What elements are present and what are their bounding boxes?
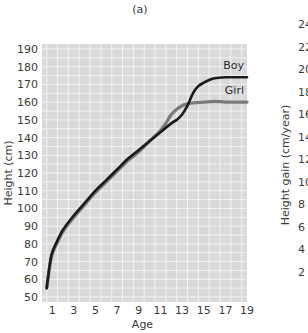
- x-tick-label: 11: [153, 304, 167, 317]
- y-tick-label-b: 12: [298, 153, 308, 166]
- y-tick-label: 70: [24, 256, 38, 269]
- chart-title: (a): [132, 3, 147, 16]
- y-tick-label-b: 16: [298, 108, 308, 121]
- x-tick-label: 3: [70, 304, 77, 317]
- y-tick-label: 110: [17, 185, 38, 198]
- y-tick-label-b: 2: [298, 266, 305, 279]
- figure: (a) 506070809010011012013014015016017018…: [0, 0, 308, 333]
- x-axis-ticks: 135791113151719: [49, 304, 254, 317]
- y-axis-label: Height (cm): [2, 140, 15, 205]
- x-tick-label: 7: [114, 304, 121, 317]
- y-tick-label: 130: [17, 149, 38, 162]
- y-tick-label: 150: [17, 114, 38, 127]
- y-tick-label: 100: [17, 202, 38, 215]
- y-axis-label-b: Height gain (cm/year): [279, 105, 292, 226]
- x-tick-label: 5: [92, 304, 99, 317]
- chart-b-partial: 24222018161412108642 Height gain (cm/yea…: [279, 18, 308, 279]
- y-tick-label: 120: [17, 167, 38, 180]
- y-tick-label: 80: [24, 238, 38, 251]
- y-tick-label-b: 8: [298, 198, 305, 211]
- y-tick-label: 90: [24, 220, 38, 233]
- chart-a: 5060708090100110120130140150160170180190…: [2, 43, 254, 331]
- series-label-girl: Girl: [225, 84, 244, 97]
- x-tick-label: 15: [197, 304, 211, 317]
- x-tick-label: 17: [218, 304, 232, 317]
- y-tick-label: 180: [17, 61, 38, 74]
- y-tick-label-b: 24: [298, 18, 308, 31]
- y-tick-label-b: 10: [298, 176, 308, 189]
- y-tick-label: 140: [17, 132, 38, 145]
- y-tick-label-b: 22: [298, 41, 308, 54]
- y-axis-ticks-b: 24222018161412108642: [298, 18, 308, 279]
- y-axis-ticks: 5060708090100110120130140150160170180190: [17, 43, 38, 304]
- y-tick-label: 170: [17, 78, 38, 91]
- y-tick-label-b: 20: [298, 63, 308, 76]
- y-tick-label: 60: [24, 273, 38, 286]
- x-axis-label: Age: [132, 318, 154, 331]
- y-tick-label-b: 14: [298, 131, 308, 144]
- y-tick-label-b: 18: [298, 86, 308, 99]
- y-tick-label-b: 4: [298, 243, 305, 256]
- x-tick-label: 9: [135, 304, 142, 317]
- y-tick-label: 160: [17, 96, 38, 109]
- series-label-boy: Boy: [223, 59, 244, 72]
- y-tick-label: 190: [17, 43, 38, 56]
- x-tick-label: 19: [240, 304, 254, 317]
- y-tick-label: 50: [24, 291, 38, 304]
- y-tick-label-b: 6: [298, 221, 305, 234]
- x-tick-label: 13: [175, 304, 189, 317]
- x-tick-label: 1: [49, 304, 56, 317]
